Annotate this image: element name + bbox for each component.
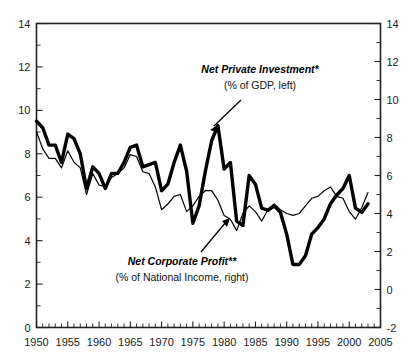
right-tick-label-2: 2	[387, 246, 393, 258]
right-tick-label-8: 8	[387, 132, 393, 144]
left-tick-label-8: 8	[24, 148, 30, 160]
annotation-title-profit: Net Corporate Profit**	[128, 255, 237, 267]
x-tick-label-1995: 1995	[306, 336, 330, 348]
annotation-subtitle-profit: (% of National Income, right)	[115, 271, 248, 283]
dual-axis-line-chart: 02468101214 -202468101214 19501955196019…	[0, 0, 416, 364]
right-tick-label-0: 0	[387, 284, 393, 296]
chart-background	[0, 0, 416, 364]
right-tick-label--2: -2	[387, 322, 397, 334]
x-tick-label-1965: 1965	[118, 336, 142, 348]
right-tick-label-6: 6	[387, 170, 393, 182]
annotation-title-investment: Net Private Investment*	[201, 63, 319, 75]
x-tick-label-1950: 1950	[24, 336, 48, 348]
left-tick-label-6: 6	[24, 191, 30, 203]
annotation-subtitle-investment: (% of GDP, left)	[224, 79, 296, 91]
left-tick-label-14: 14	[18, 18, 30, 30]
left-tick-label-0: 0	[24, 322, 30, 334]
left-tick-label-2: 2	[24, 278, 30, 290]
right-tick-label-10: 10	[387, 94, 399, 106]
right-tick-label-12: 12	[387, 56, 399, 68]
right-tick-label-14: 14	[387, 18, 399, 30]
x-tick-label-2000: 2000	[337, 336, 361, 348]
x-tick-label-1970: 1970	[149, 336, 173, 348]
right-tick-label-4: 4	[387, 208, 393, 220]
x-tick-label-2005: 2005	[368, 336, 392, 348]
left-tick-label-12: 12	[18, 61, 30, 73]
x-tick-label-1975: 1975	[181, 336, 205, 348]
left-tick-label-10: 10	[18, 104, 30, 116]
chart-figure: 02468101214 -202468101214 19501955196019…	[0, 0, 416, 364]
left-tick-label-4: 4	[24, 235, 30, 247]
x-tick-label-1990: 1990	[274, 336, 298, 348]
x-tick-label-1955: 1955	[56, 336, 80, 348]
x-tick-label-1980: 1980	[212, 336, 236, 348]
x-tick-label-1960: 1960	[87, 336, 111, 348]
x-tick-label-1985: 1985	[243, 336, 267, 348]
